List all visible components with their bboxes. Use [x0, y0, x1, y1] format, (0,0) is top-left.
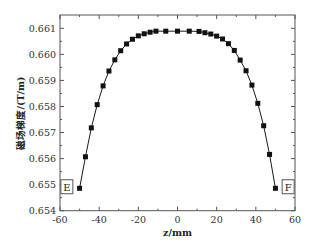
data-point	[112, 57, 117, 62]
y-tick-label: 0.656	[29, 153, 56, 164]
data-point	[124, 41, 129, 46]
data-point	[220, 36, 225, 41]
data-point	[89, 125, 94, 130]
data-point	[130, 37, 135, 42]
data-point	[95, 102, 100, 107]
data-point	[153, 29, 158, 34]
data-point	[273, 186, 278, 191]
data-point	[187, 29, 192, 34]
data-point	[255, 101, 260, 106]
data-point	[101, 83, 106, 88]
data-point	[226, 41, 231, 46]
annotations: EF	[61, 180, 294, 194]
x-axis: -60-40-200204060	[52, 15, 301, 225]
data-point	[202, 30, 207, 35]
series-group	[77, 29, 278, 191]
data-point	[175, 29, 180, 34]
chart: -60-40-200204060 0.6540.6550.6560.6570.6…	[0, 0, 319, 252]
data-point	[208, 32, 213, 37]
data-point	[249, 83, 254, 88]
x-tick-label: 40	[250, 214, 262, 225]
annotation-label: E	[63, 182, 70, 193]
data-point	[106, 69, 111, 74]
data-point	[232, 48, 237, 53]
y-axis-title: 磁场梯度/(T/m)	[15, 76, 26, 149]
x-tick-label: 0	[174, 214, 180, 225]
data-point	[197, 29, 202, 34]
y-tick-label: 0.660	[29, 49, 56, 60]
data-point	[244, 68, 249, 73]
data-point	[214, 34, 219, 39]
data-point	[163, 29, 168, 34]
data-point	[83, 154, 88, 159]
series-line	[80, 31, 276, 188]
y-tick-label: 0.661	[29, 23, 56, 34]
data-point	[148, 30, 153, 35]
x-tick-label: 20	[211, 214, 223, 225]
data-point	[142, 31, 147, 36]
y-tick-label: 0.655	[29, 179, 56, 190]
x-tick-label: -20	[131, 214, 146, 225]
annotation-label: F	[285, 182, 292, 193]
data-point	[136, 33, 141, 38]
data-point	[238, 58, 243, 63]
data-point	[261, 123, 266, 128]
x-tick-label: 60	[289, 214, 301, 225]
data-point	[267, 152, 272, 157]
y-tick-label: 0.654	[29, 205, 56, 216]
x-tick-label: -40	[92, 214, 107, 225]
x-axis-title: z/mm	[163, 227, 192, 238]
y-tick-label: 0.659	[29, 75, 56, 86]
data-point	[118, 48, 123, 53]
y-tick-label: 0.657	[29, 127, 56, 138]
y-tick-label: 0.658	[29, 101, 56, 112]
data-point	[77, 186, 82, 191]
